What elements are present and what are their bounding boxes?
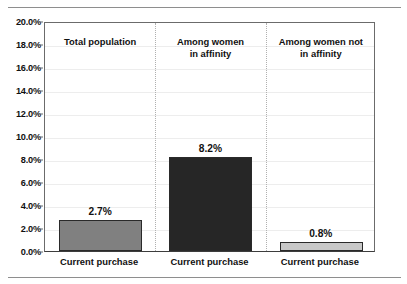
category-label: Current purchase: [281, 256, 359, 267]
bar-value-label: 0.8%: [266, 228, 376, 239]
y-axis-tick-label: 12.0%: [1, 109, 41, 119]
category-label: Current purchase: [170, 256, 248, 267]
bar-value-label: 8.2%: [155, 143, 265, 154]
top-rule: [8, 7, 401, 8]
bar-2: [169, 157, 252, 251]
panel-title-line-1: Total population: [45, 36, 155, 48]
y-axis-tick-label: 2.0%: [1, 224, 41, 234]
y-axis-tick-label: 18.0%: [1, 40, 41, 50]
y-axis-tick-mark: [38, 45, 43, 46]
bar-chart-figure: 0.0%2.0%4.0%6.0%8.0%10.0%12.0%14.0%16.0%…: [0, 0, 407, 284]
panel-title-line-1: Among women not: [266, 36, 376, 48]
panel-title: Among womenin affinity: [155, 36, 265, 59]
panel-3: Among women notin affinity0.8%: [266, 23, 376, 251]
y-axis-tick-mark: [38, 252, 43, 253]
panel-2: Among womenin affinity8.2%: [155, 23, 265, 251]
y-axis-labels: 0.0%2.0%4.0%6.0%8.0%10.0%12.0%14.0%16.0%…: [0, 22, 41, 252]
panel-title-line-1: Among women: [155, 36, 265, 48]
y-axis-tick-label: 6.0%: [1, 178, 41, 188]
y-axis-tick-label: 14.0%: [1, 86, 41, 96]
y-axis-tick-mark: [38, 114, 43, 115]
panel-1: Total population2.7%: [45, 23, 155, 251]
y-axis-tick-label: 8.0%: [1, 155, 41, 165]
y-axis-tick-mark: [38, 22, 43, 23]
plot-area: Total population2.7%Among womenin affini…: [44, 22, 375, 252]
bottom-rule: [8, 277, 401, 278]
panel-title: Among women notin affinity: [266, 36, 376, 59]
y-axis-tick-label: 10.0%: [1, 132, 41, 142]
panel-title-line-2: in affinity: [266, 48, 376, 60]
category-label: Current purchase: [60, 256, 138, 267]
panel-title-line-2: in affinity: [155, 48, 265, 60]
y-axis-tick-mark: [38, 160, 43, 161]
y-axis-tick-label: 0.0%: [1, 247, 41, 257]
bar-3: [280, 242, 363, 251]
panel-title: Total population: [45, 36, 155, 48]
y-axis-tick-label: 16.0%: [1, 63, 41, 73]
y-axis-tick-mark: [38, 229, 43, 230]
bar-1: [59, 220, 142, 251]
bar-value-label: 2.7%: [45, 206, 155, 217]
y-axis-tick-mark: [38, 206, 43, 207]
y-axis-tick-mark: [38, 137, 43, 138]
y-axis-tick-mark: [38, 183, 43, 184]
y-axis-tick-mark: [38, 68, 43, 69]
y-axis-tick-label: 4.0%: [1, 201, 41, 211]
y-axis-tick-label: 20.0%: [1, 17, 41, 27]
y-axis-tick-mark: [38, 91, 43, 92]
